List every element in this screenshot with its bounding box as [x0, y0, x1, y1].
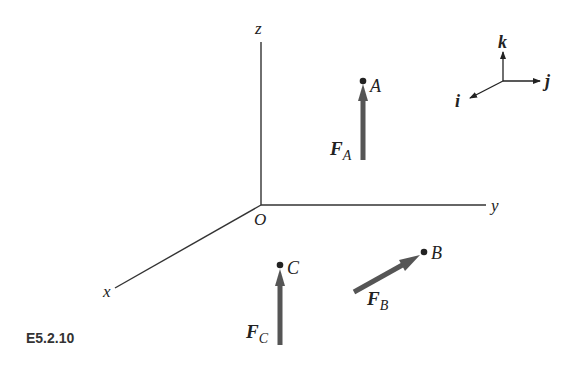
force-FB-group: B FB: [354, 243, 442, 313]
j-label: j: [542, 71, 551, 91]
force-FA-group: A FA: [329, 76, 382, 163]
i-label: i: [455, 91, 460, 111]
figure-caption: E5.2.10: [26, 330, 74, 346]
unit-vector-triad: k j i: [455, 32, 551, 111]
force-FC-group: C FC: [245, 258, 300, 346]
z-axis-label: z: [254, 19, 262, 38]
force-FA-arrowhead-icon: [358, 84, 368, 101]
force-FB-label: FB: [366, 288, 389, 313]
point-B-label: B: [431, 243, 442, 263]
force-FC-arrowhead-icon: [275, 269, 285, 286]
origin-label: O: [254, 210, 266, 229]
point-C-label: C: [287, 258, 300, 278]
force-FA-arrow-shaft: [361, 98, 366, 160]
force-FC-label: FC: [245, 321, 269, 346]
point-B-dot: [421, 249, 428, 256]
force-FB-arrowhead-icon: [399, 255, 420, 271]
y-axis-label: y: [489, 196, 499, 215]
x-axis: [115, 205, 261, 288]
force-FB-arrow-shaft: [354, 263, 406, 292]
x-axis-label: x: [102, 282, 111, 301]
force-FA-label: FA: [329, 138, 352, 163]
i-vector-icon: [470, 81, 503, 98]
force-FC-arrow-shaft: [278, 283, 283, 345]
k-label: k: [498, 32, 507, 52]
point-A-label: A: [369, 76, 382, 96]
point-C-dot: [277, 262, 284, 269]
point-A-dot: [360, 78, 367, 85]
diagram-canvas: z y x O k j i A FA B FB C FC E5.2.10: [0, 0, 587, 365]
